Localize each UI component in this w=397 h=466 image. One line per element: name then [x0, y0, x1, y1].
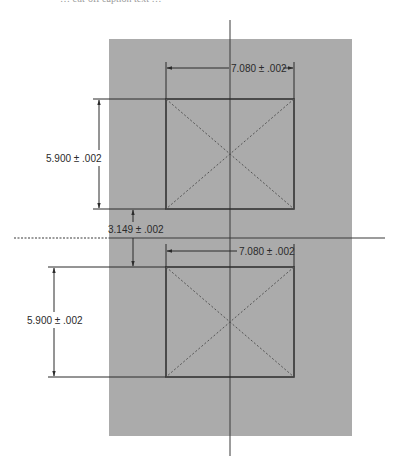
dimension-label-bottom-height: 5.900 ± .002 — [27, 315, 83, 326]
dimension-label-top-width: 7.080 ± .002 — [231, 63, 287, 74]
dimension-label-bottom-width: 7.080 ± .002 — [239, 246, 295, 257]
dimension-label-top-height: 5.900 ± .002 — [46, 153, 102, 164]
technical-drawing: 7.080 ± .002 5.900 ± .002 3.149 ± .002 7… — [0, 0, 397, 466]
dimension-label-gap: 3.149 ± .002 — [108, 224, 164, 235]
